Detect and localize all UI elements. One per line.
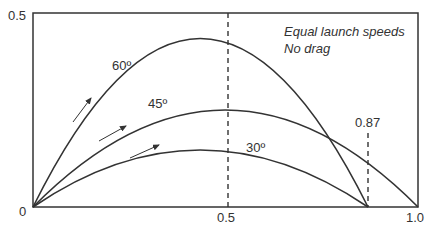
x-axis-tick-1.0: 1.0	[406, 210, 424, 225]
curve-label-30: 30º	[246, 140, 265, 155]
direction-arrow-60	[73, 98, 91, 122]
curve-label-60: 60º	[112, 58, 131, 73]
note-equal-launch-speeds: Equal launch speeds	[284, 24, 405, 39]
curve-label-45: 45º	[148, 96, 167, 111]
projectile-trajectories-diagram: 60º 45º 30º 0.5 0 0.5 1.0 0.87 Equal lau…	[0, 0, 433, 233]
y-axis-tick-0.5: 0.5	[8, 8, 26, 23]
origin-label: 0	[19, 204, 26, 219]
note-no-drag: No drag	[284, 41, 331, 56]
range-marker-label: 0.87	[355, 115, 380, 130]
trajectory-30-deg	[33, 150, 368, 207]
trajectory-60-deg	[33, 39, 368, 208]
x-axis-tick-0.5: 0.5	[217, 210, 235, 225]
